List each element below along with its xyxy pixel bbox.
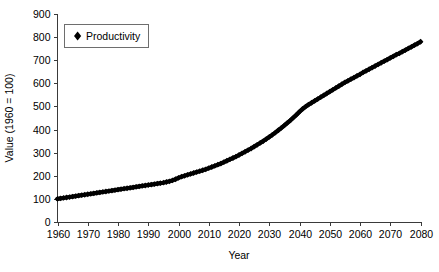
- y-axis-title: Value (1960 = 100): [3, 74, 15, 163]
- y-tick-label: 200: [33, 170, 51, 182]
- chart-legend[interactable]: Productivity: [65, 25, 149, 48]
- y-tick-label: 400: [33, 124, 51, 136]
- x-tick-label: 2000: [168, 228, 192, 240]
- productivity-line-chart: 0100200300400500600700800900 Value (1960…: [0, 0, 439, 272]
- x-axis-title: Year: [228, 249, 250, 261]
- y-tick-label: 800: [33, 31, 51, 43]
- y-tick-label: 900: [33, 8, 51, 20]
- x-tick-label: 2080: [410, 228, 434, 240]
- x-tick-label: 1990: [137, 228, 161, 240]
- y-tick-label: 0: [45, 216, 51, 228]
- x-tick-label: 1980: [107, 228, 131, 240]
- x-tick-label: 2070: [379, 228, 403, 240]
- y-tick-label: 500: [33, 100, 51, 112]
- x-tick-label: 1970: [77, 228, 101, 240]
- x-tick-label: 2060: [349, 228, 373, 240]
- x-tick-label: 2030: [258, 228, 282, 240]
- x-tick-label: 2050: [319, 228, 343, 240]
- y-tick-label: 600: [33, 77, 51, 89]
- chart-container: 0100200300400500600700800900 Value (1960…: [0, 0, 439, 272]
- y-tick-label: 700: [33, 54, 51, 66]
- x-tick-label: 2040: [289, 228, 313, 240]
- x-tick-label: 1960: [47, 228, 71, 240]
- x-tick-label: 2010: [198, 228, 222, 240]
- y-tick-label: 100: [33, 193, 51, 205]
- legend-label-productivity: Productivity: [86, 30, 141, 42]
- x-tick-label: 2020: [228, 228, 252, 240]
- y-tick-label: 300: [33, 147, 51, 159]
